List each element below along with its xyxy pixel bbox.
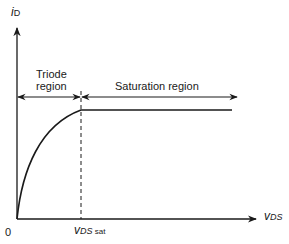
y-axis-label: iD	[11, 6, 20, 19]
vdssat-label: vDS sat	[74, 224, 105, 238]
id-vds-curve	[17, 110, 232, 219]
x-axis-label: vDS	[264, 210, 283, 223]
triode-region-label: Triode region	[36, 68, 67, 92]
saturation-region-label: Saturation region	[115, 80, 199, 92]
origin-label: 0	[5, 226, 11, 238]
diagram-canvas	[0, 0, 289, 244]
